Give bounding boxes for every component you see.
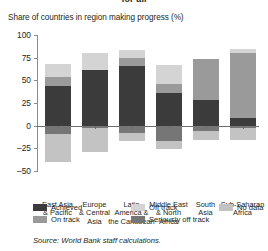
bar-segment xyxy=(45,64,71,77)
chart-legend: AchievedOn trackOff trackSeriously off t… xyxy=(33,203,265,227)
y-tick-label: 75 xyxy=(22,53,31,63)
bar-segment xyxy=(156,93,182,126)
y-tick xyxy=(34,171,38,172)
bar-segment xyxy=(230,49,256,54)
bar-segment xyxy=(230,118,256,125)
x-tick xyxy=(169,126,170,129)
bar-segment xyxy=(82,128,108,152)
x-tick xyxy=(95,126,96,129)
bar-segment xyxy=(156,65,182,84)
y-tick-label: 0 xyxy=(26,121,31,131)
legend-label: Off track xyxy=(149,203,178,212)
legend-label: On track xyxy=(51,215,80,224)
figure-panel: for all Share of countries in region mak… xyxy=(0,0,268,251)
bar-segment xyxy=(82,70,108,125)
legend-swatch-icon xyxy=(131,216,145,223)
legend-item[interactable]: No data xyxy=(219,203,264,212)
legend-swatch-icon xyxy=(33,204,47,211)
y-tick xyxy=(34,58,38,59)
bar-segment xyxy=(193,59,219,100)
axis-title: Share of countries in region making prog… xyxy=(8,13,184,22)
bar-segment xyxy=(119,58,145,66)
y-tick xyxy=(34,103,38,104)
y-tick xyxy=(34,80,38,81)
legend-item[interactable]: Achieved xyxy=(33,203,82,212)
bar-segment xyxy=(119,133,145,141)
bar-segment xyxy=(230,53,256,118)
bar-segment xyxy=(119,50,145,57)
bar-segment xyxy=(45,77,71,86)
bar-segment xyxy=(193,100,219,125)
bar-stack xyxy=(230,31,256,171)
bar-segment xyxy=(230,128,256,140)
bar-segment xyxy=(119,66,145,126)
bar-stack xyxy=(193,31,219,171)
legend-swatch-icon xyxy=(33,216,47,223)
x-tick xyxy=(58,126,59,129)
legend-label: Seriously off track xyxy=(149,215,209,224)
x-tick xyxy=(243,126,244,129)
legend-item[interactable]: Off track xyxy=(131,203,178,212)
source-note: Source: World Bank staff calculations. xyxy=(33,236,161,245)
clipped-chart-title: for all xyxy=(0,0,268,4)
x-tick xyxy=(132,126,133,129)
y-tick-label: 25 xyxy=(22,98,31,108)
legend-item[interactable]: On track xyxy=(33,215,80,224)
bar-stack xyxy=(82,31,108,171)
bar-segment xyxy=(45,86,71,126)
y-tick-label: 50 xyxy=(22,75,31,85)
bar-segment xyxy=(156,84,182,93)
legend-swatch-icon xyxy=(131,204,145,211)
y-tick-label: –25 xyxy=(17,143,31,153)
legend-label: Achieved xyxy=(51,203,82,212)
bar-stack xyxy=(156,31,182,171)
legend-swatch-icon xyxy=(219,204,233,211)
bar-stack xyxy=(119,31,145,171)
bar-segment xyxy=(45,134,71,162)
plot-area: 1007550250–25–50 xyxy=(37,31,259,171)
y-tick-label: –50 xyxy=(17,166,31,176)
legend-item[interactable]: Seriously off track xyxy=(131,215,209,224)
bar-segment xyxy=(193,131,219,140)
legend-label: No data xyxy=(237,203,264,212)
bar-segment xyxy=(82,53,108,70)
bar-segment xyxy=(156,141,182,149)
y-tick xyxy=(34,35,38,36)
y-tick-label: 100 xyxy=(17,30,31,40)
y-tick xyxy=(34,148,38,149)
bar-stack xyxy=(45,31,71,171)
x-tick xyxy=(206,126,207,129)
